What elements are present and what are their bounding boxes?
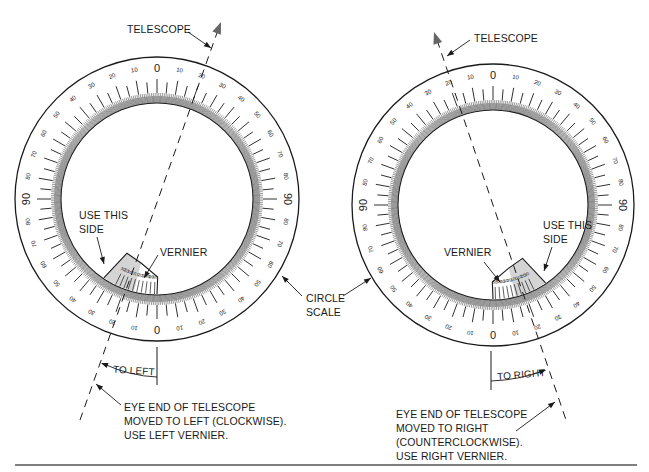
circle-scale-label-line1: CIRCLE bbox=[306, 292, 345, 305]
scale-label: 40 bbox=[237, 94, 246, 103]
scale-label: 40 bbox=[68, 295, 77, 304]
scale-label: 40 bbox=[236, 295, 245, 304]
scale-label: 10 bbox=[130, 324, 138, 331]
scale-label: 70 bbox=[367, 245, 375, 254]
scale-label: 60 bbox=[376, 135, 385, 144]
scale-label: 70 bbox=[611, 245, 619, 254]
scale-label: 60 bbox=[266, 260, 275, 269]
scale-label: 50 bbox=[389, 116, 398, 125]
left-caption-line1: EYE END OF TELESCOPE bbox=[124, 401, 255, 414]
scale-label: 90 bbox=[617, 199, 629, 211]
scale-label: 30 bbox=[423, 313, 432, 322]
scale-label: 0 bbox=[490, 329, 496, 341]
scale-label: 60 bbox=[39, 129, 48, 138]
vernier-diagram-figure: 0102030405060708090807060504030201001020… bbox=[0, 0, 649, 472]
scale-label: 50 bbox=[253, 110, 262, 119]
scale-label: 10 bbox=[176, 66, 184, 73]
scale-label: 60 bbox=[376, 265, 385, 274]
scale-label: 30 bbox=[554, 88, 563, 97]
scale-label: 30 bbox=[218, 308, 227, 317]
scale-label: 80 bbox=[617, 179, 624, 187]
left-circle-scale: 0102030405060708090807060504030201001020… bbox=[15, 57, 299, 341]
scale-label: 10 bbox=[512, 73, 520, 80]
right-caption-line3: (COUNTERCLOCKWISE). bbox=[396, 436, 523, 449]
scale-label: 80 bbox=[282, 172, 289, 180]
scale-label: 60 bbox=[601, 266, 610, 275]
scale-label: 50 bbox=[389, 284, 398, 293]
arrowhead-icon bbox=[544, 264, 549, 271]
scale-label: 20 bbox=[444, 323, 453, 331]
scale-label: 0 bbox=[490, 69, 496, 81]
scale-label: 70 bbox=[30, 149, 38, 158]
scale-label: 50 bbox=[52, 110, 61, 119]
scale-label: 80 bbox=[282, 218, 289, 226]
scale-label: 70 bbox=[276, 150, 284, 159]
inner-rim bbox=[61, 103, 253, 295]
scale-label: 80 bbox=[24, 172, 31, 180]
scale-label: 20 bbox=[197, 318, 206, 326]
arrowhead-icon bbox=[364, 278, 371, 284]
scale-label: 20 bbox=[108, 72, 117, 80]
scale-label: 50 bbox=[52, 278, 61, 287]
arrowhead-icon bbox=[212, 22, 221, 35]
right-vernier-label: VERNIER bbox=[444, 246, 491, 259]
scale-label: 60 bbox=[266, 129, 275, 138]
scale-label: 80 bbox=[361, 223, 368, 231]
left-telescope-label: TELESCOPE bbox=[127, 23, 191, 36]
scale-label: 10 bbox=[511, 329, 519, 336]
fine-graduations bbox=[51, 93, 263, 305]
scale-label: 10 bbox=[466, 329, 474, 336]
arrowhead-icon bbox=[433, 32, 442, 45]
circle-scale-label-line2: SCALE bbox=[306, 306, 341, 319]
left-caption-line3: USE LEFT VERNIER. bbox=[124, 429, 228, 442]
left-use-this-side-label-line1: USE THIS bbox=[79, 209, 128, 222]
scale-label: 70 bbox=[367, 156, 375, 165]
scale-label: 80 bbox=[24, 217, 31, 225]
right-caption-line2: MOVED TO RIGHT bbox=[396, 422, 489, 435]
scale-label: 60 bbox=[39, 260, 48, 269]
scale-label: 40 bbox=[572, 101, 581, 110]
scale-label: 90 bbox=[357, 199, 369, 211]
right-caption-line4: USE RIGHT VERNIER. bbox=[396, 450, 507, 463]
scale-label: 80 bbox=[617, 224, 624, 232]
scale-label: 40 bbox=[68, 94, 77, 103]
scale-label: 50 bbox=[588, 284, 597, 293]
scale-label: 90 bbox=[20, 193, 32, 205]
scale-label: 90 bbox=[282, 193, 294, 205]
scale-label: 70 bbox=[30, 239, 38, 248]
scale-label: 40 bbox=[404, 300, 413, 309]
scale-label: 30 bbox=[553, 313, 562, 322]
scale-label: 30 bbox=[218, 81, 227, 90]
scale-label: 40 bbox=[572, 300, 581, 309]
scale-label: 30 bbox=[87, 308, 96, 317]
scale-label: 50 bbox=[253, 279, 262, 288]
scale-label: 10 bbox=[175, 324, 183, 331]
scale-label: 0 bbox=[154, 324, 160, 336]
arrowhead-icon bbox=[100, 257, 105, 264]
right-caption-line1: EYE END OF TELESCOPE bbox=[396, 408, 527, 421]
scale-label: 70 bbox=[276, 240, 284, 249]
scale-label: 20 bbox=[533, 79, 542, 87]
arrowhead-icon bbox=[548, 402, 555, 408]
right-use-this-side-label-line2: SIDE bbox=[543, 233, 568, 246]
left-use-this-side-label-line2: SIDE bbox=[79, 223, 104, 236]
scale-label: 30 bbox=[424, 88, 433, 97]
left-caption-line2: MOVED TO LEFT (CLOCKWISE). bbox=[124, 415, 286, 428]
right-telescope-label: TELESCOPE bbox=[474, 32, 538, 45]
scale-label: 80 bbox=[361, 178, 368, 186]
scale-label: 60 bbox=[601, 136, 610, 145]
arrowhead-icon bbox=[101, 363, 108, 368]
scale-label: 10 bbox=[467, 73, 475, 80]
scale-label: 30 bbox=[87, 81, 96, 90]
arrowhead-icon bbox=[447, 50, 454, 56]
scale-label: 40 bbox=[405, 101, 414, 110]
scale-label: 0 bbox=[154, 62, 160, 74]
scale-label: 50 bbox=[588, 117, 597, 126]
right-use-this-side-label-line1: USE THIS bbox=[543, 219, 592, 232]
scale-label: 10 bbox=[130, 66, 138, 73]
arrowhead-icon bbox=[204, 42, 211, 48]
left-vernier-label: VERNIER bbox=[160, 246, 207, 259]
scale-label: 70 bbox=[611, 156, 619, 165]
